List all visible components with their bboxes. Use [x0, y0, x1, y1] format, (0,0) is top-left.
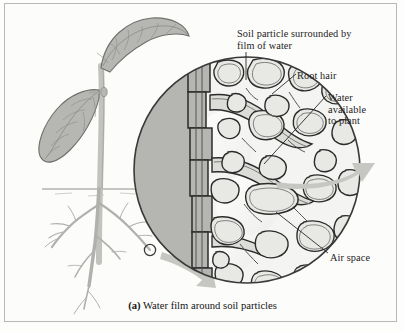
- label-water-available: Water available to plant: [328, 92, 400, 127]
- label-air-space: Air space: [330, 252, 370, 264]
- caption-letter: (a): [128, 300, 140, 311]
- label-soil-particle: Soil particle surrounded by film of wate…: [237, 28, 397, 51]
- stem-bud: [101, 87, 107, 96]
- figure-caption: (a) Water film around soil particles: [0, 300, 405, 311]
- label-root-hair: Root hair: [297, 70, 337, 82]
- leaf-petiole: [89, 92, 99, 93]
- figure-container: Soil particle surrounded by film of wate…: [0, 0, 405, 332]
- upper-leaf: [97, 18, 189, 72]
- lower-leaf: [39, 90, 99, 162]
- caption-text: Water film around soil particles: [143, 300, 277, 311]
